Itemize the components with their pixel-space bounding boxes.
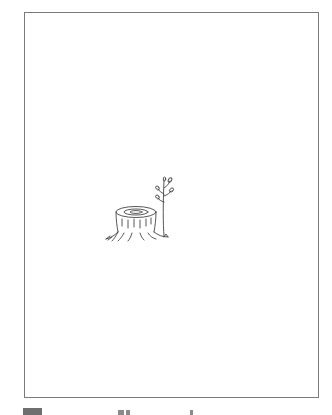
footer-mark bbox=[118, 410, 124, 415]
footer-strip bbox=[0, 408, 332, 415]
footer-bar bbox=[23, 408, 42, 415]
tree-stump-icon bbox=[104, 174, 180, 244]
footer-mark bbox=[126, 410, 130, 415]
footer-mark bbox=[190, 410, 193, 415]
